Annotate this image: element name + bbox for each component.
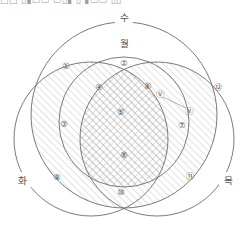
region-label-8: ⑧ bbox=[120, 150, 128, 160]
region-label-6: ⑥ bbox=[144, 81, 152, 91]
set-label-wol: 월 bbox=[120, 38, 129, 49]
diagram-canvas: □□ ▯▮▭▭ ▭▯▮ ▯ ▮▭▭ ▯▯ bbox=[0, 0, 249, 231]
region-label-10: ⑩ bbox=[117, 187, 125, 197]
venn-diagram: 수 월 화 목 ① ② ③ ④ ⑤ ⑥ ⑦ ⑧ ⑨ ⑩ ⑪ ⑫ Ⓥ Ⓥ bbox=[0, 0, 249, 231]
callout-end-marker: Ⓥ bbox=[185, 106, 194, 116]
callout-start-marker: Ⓥ bbox=[156, 89, 165, 99]
region-label-9: ⑨ bbox=[53, 172, 61, 182]
set-label-mok: 목 bbox=[224, 175, 233, 186]
region-label-5: ⑤ bbox=[117, 107, 125, 117]
set-label-su: 수 bbox=[120, 12, 129, 23]
region-label-1: ① bbox=[62, 61, 70, 71]
region-label-12: ⑫ bbox=[214, 82, 223, 92]
region-label-11: ⑪ bbox=[186, 171, 195, 181]
region-label-3: ③ bbox=[60, 119, 68, 129]
set-label-hwa: 화 bbox=[18, 175, 27, 186]
region-label-7: ⑦ bbox=[178, 120, 186, 130]
region-label-2: ② bbox=[120, 58, 128, 68]
region-label-4: ④ bbox=[95, 82, 103, 92]
